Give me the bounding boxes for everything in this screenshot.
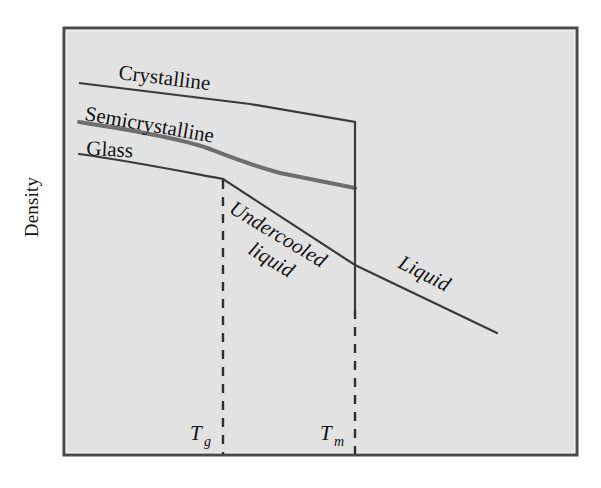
tick-label-tg-base: T bbox=[190, 421, 203, 445]
tick-label-tg-subscript: g bbox=[204, 434, 211, 449]
chart-canvas: Crystalline Semicrystalline Glass Underc… bbox=[0, 0, 601, 488]
tick-label-tm-base: T bbox=[320, 421, 333, 445]
density-temperature-figure: Density Crystalline Semicrystalline Glas… bbox=[0, 0, 601, 488]
tick-label-tm-subscript: m bbox=[334, 434, 344, 449]
y-axis-label: Density bbox=[21, 147, 43, 267]
label-glass: Glass bbox=[86, 136, 134, 162]
